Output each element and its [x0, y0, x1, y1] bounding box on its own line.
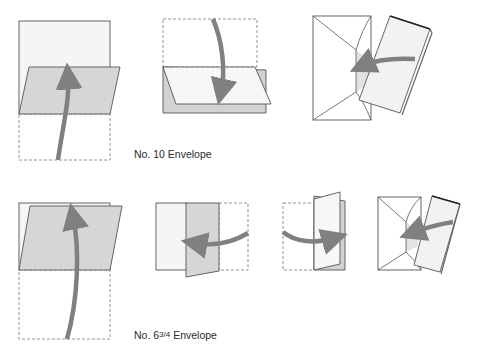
caption-prefix: No. 6: [134, 329, 159, 341]
folding-diagram: [0, 0, 479, 355]
row2-step1-fold-up: [19, 203, 122, 339]
row2-step4-insert-envelope: [378, 196, 460, 274]
row1-step3-insert-envelope: [313, 16, 432, 120]
row1-step2-fold-down: [163, 19, 271, 113]
caption-no6-3-4-envelope: No. 63/4 Envelope: [134, 329, 217, 341]
row2-step3-fold-right: [283, 192, 345, 270]
caption-no10-envelope: No. 10 Envelope: [134, 148, 212, 160]
row1-step1-fold-up: [19, 21, 120, 160]
row2-step2-fold-left: [156, 203, 248, 277]
caption-suffix: Envelope: [173, 329, 217, 341]
caption-fraction: 3/4: [159, 330, 170, 339]
